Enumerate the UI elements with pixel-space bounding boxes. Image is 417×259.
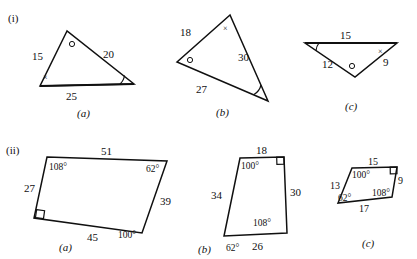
angle-label-iic-108: 108° xyxy=(372,188,390,198)
side-label-iic-13: 13 xyxy=(330,180,340,191)
side-label-ib-30: 30 xyxy=(238,51,250,63)
figure-canvas: (i) (ii) 15 20 25 × (a) 18 30 27 × (b) 1… xyxy=(0,0,417,259)
triangle-ia-outline xyxy=(40,31,134,86)
sublabel-iia: (a) xyxy=(59,241,72,254)
angle-label-iic-62: 62° xyxy=(338,193,352,203)
side-label-ia-20: 20 xyxy=(103,48,115,60)
right-angle-marker-icon xyxy=(277,157,284,164)
side-label-iia-27: 27 xyxy=(24,182,36,194)
angle-mark-cross-icon: × xyxy=(43,73,48,82)
side-label-ia-15: 15 xyxy=(32,50,44,62)
side-label-iia-51: 51 xyxy=(101,145,112,157)
sublabel-ia: (a) xyxy=(77,107,90,120)
side-label-iia-39: 39 xyxy=(160,195,172,207)
angle-mark-arc-icon xyxy=(254,85,261,95)
angle-label-iib-100: 100° xyxy=(241,161,259,171)
triangle-ia xyxy=(40,31,134,86)
angle-label-iic-100: 100° xyxy=(352,170,370,180)
angle-mark-circle-icon xyxy=(69,41,74,46)
angle-label-iia-100: 100° xyxy=(118,230,136,240)
side-label-ib-18: 18 xyxy=(180,26,192,38)
row-label-i: (i) xyxy=(8,12,19,25)
side-label-iib-30: 30 xyxy=(290,186,302,198)
sublabel-ib: (b) xyxy=(216,106,229,119)
side-label-iia-45: 45 xyxy=(87,231,99,243)
row-i-group xyxy=(40,15,397,101)
angle-mark-circle-icon xyxy=(187,57,192,62)
sublabel-iic: (c) xyxy=(362,237,375,250)
angle-mark-cross-icon: × xyxy=(223,24,228,33)
angle-mark-circle-icon xyxy=(349,63,354,68)
side-label-ib-27: 27 xyxy=(196,83,208,95)
sublabel-iib: (b) xyxy=(198,243,211,256)
side-label-iib-34: 34 xyxy=(211,189,223,201)
angle-mark-cross-icon: × xyxy=(378,47,383,56)
side-label-ic-15: 15 xyxy=(340,29,352,41)
side-label-iic-17: 17 xyxy=(359,203,369,214)
angle-mark-arc-icon xyxy=(316,43,319,51)
sublabel-ic: (c) xyxy=(345,100,358,113)
angle-label-iib-62: 62° xyxy=(226,243,240,253)
side-label-iib-26: 26 xyxy=(252,240,264,252)
side-label-ic-9: 9 xyxy=(383,56,389,68)
side-label-ic-12: 12 xyxy=(322,58,333,70)
right-angle-marker-icon xyxy=(36,210,45,219)
angle-label-iib-108: 108° xyxy=(253,218,271,228)
side-label-iic-9: 9 xyxy=(398,175,403,186)
triangle-ia-base xyxy=(40,84,134,86)
side-label-iic-15: 15 xyxy=(368,156,378,167)
angle-mark-arc-icon xyxy=(120,76,125,85)
angle-label-iia-108: 108° xyxy=(49,162,67,172)
angle-label-iia-62: 62° xyxy=(146,164,160,174)
geometry-figure-page: (i) (ii) 15 20 25 × (a) 18 30 27 × (b) 1… xyxy=(0,0,417,259)
side-label-iib-18: 18 xyxy=(256,144,268,156)
side-label-ia-25: 25 xyxy=(66,90,78,102)
row-label-ii: (ii) xyxy=(6,144,20,157)
